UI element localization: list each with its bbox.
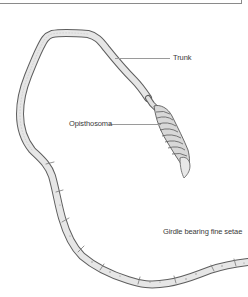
label-trunk: Trunk xyxy=(173,53,191,62)
opisthosoma-segment xyxy=(148,98,190,178)
worm-illustration xyxy=(0,0,248,297)
opisthosoma-leader-line xyxy=(109,124,161,125)
label-girdle: Girdle bearing fine setae xyxy=(163,227,242,236)
trunk-leader-line xyxy=(115,58,170,59)
worm-body xyxy=(20,33,248,285)
label-opisthosoma: Opisthosoma xyxy=(69,119,112,128)
